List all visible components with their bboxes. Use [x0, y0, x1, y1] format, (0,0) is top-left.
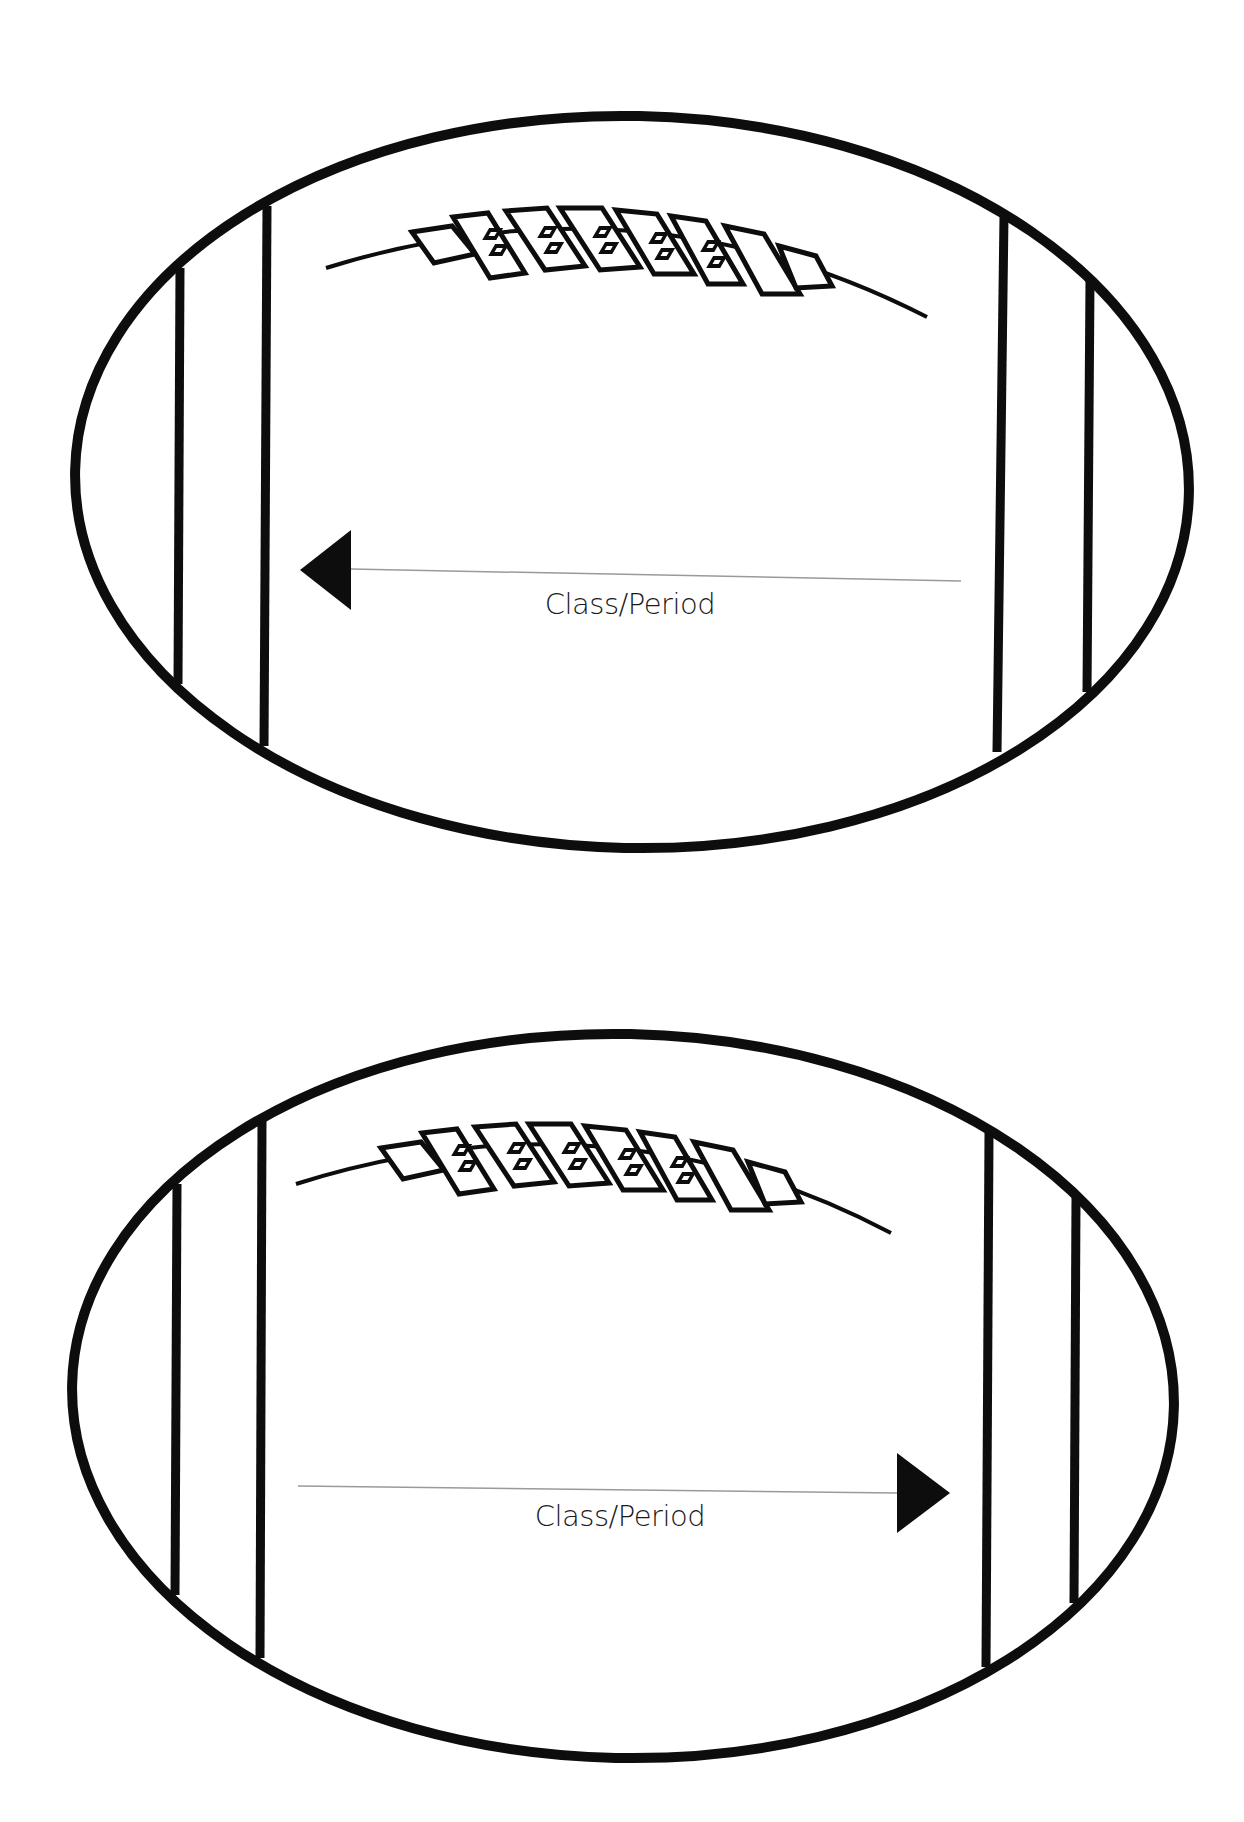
football-top: Class/Period [67, 104, 1196, 859]
lace-cross-stitch [601, 244, 616, 252]
lace-cross-stitch [564, 1144, 579, 1152]
lace-cross-stitch [626, 1166, 641, 1174]
class-period-write-line[interactable] [298, 1486, 897, 1493]
arrow-right-icon [897, 1453, 950, 1533]
lace-cross-stitch [540, 228, 555, 236]
football-laces-icon [412, 208, 832, 294]
lace-cross-stitch [515, 1160, 530, 1168]
class-period-label: Class/Period [545, 587, 716, 621]
football-name-tag-sheet: Class/Period Class/Period [0, 0, 1244, 1822]
lace-cross-stitch [546, 244, 561, 252]
football-stripe [178, 268, 180, 684]
lace-cross-stitch [657, 250, 672, 258]
class-period-label: Class/Period [535, 1499, 706, 1533]
lace-cross-stitch [485, 230, 500, 238]
lace-cross-stitch [595, 228, 610, 236]
football-bottom: Class/Period [65, 1023, 1182, 1770]
football-stripes [178, 206, 1090, 752]
football-laces-icon [381, 1124, 801, 1210]
lace-cross-stitch [460, 1162, 475, 1170]
lace-cross-stitch [703, 242, 718, 250]
football-stripe [997, 216, 1004, 752]
class-period-write-line[interactable] [351, 569, 961, 581]
football-stripe [1074, 1198, 1076, 1603]
lace-cross-stitch [509, 1144, 524, 1152]
football-stripe [1087, 281, 1090, 692]
arrow-left-icon [300, 530, 351, 610]
football-stripe [175, 1184, 177, 1595]
lace-cross-stitch [491, 246, 506, 254]
football-stripes [175, 1121, 1076, 1667]
lace-cross-stitch [709, 258, 724, 266]
lace-cross-stitch [570, 1160, 585, 1168]
lace-cross-stitch [454, 1146, 469, 1154]
football-stripe [264, 206, 267, 746]
football-stripe [986, 1133, 989, 1667]
lace-cross-stitch [672, 1158, 687, 1166]
lace-cross-stitch [651, 234, 666, 242]
lace-cross-stitch [678, 1174, 693, 1182]
football-stripe [260, 1121, 262, 1658]
lace-cross-stitch [620, 1150, 635, 1158]
